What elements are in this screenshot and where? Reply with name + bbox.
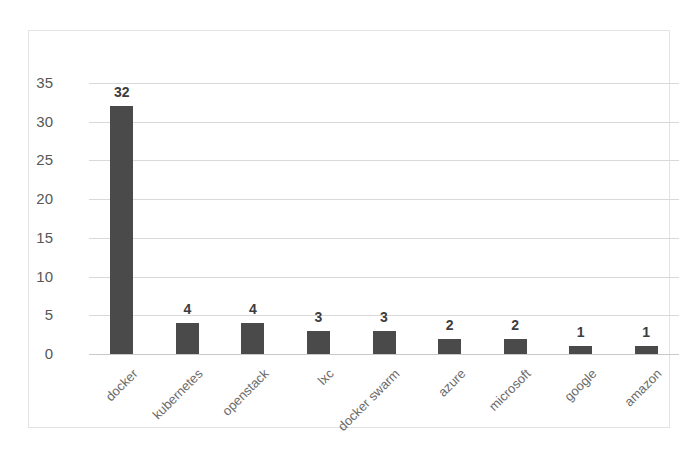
chart-frame: 3244332211 05101520253035 dockerkubernet… <box>28 30 670 428</box>
x-axis-category-labels: dockerkubernetesopenstacklxcdocker swarm… <box>29 31 669 427</box>
